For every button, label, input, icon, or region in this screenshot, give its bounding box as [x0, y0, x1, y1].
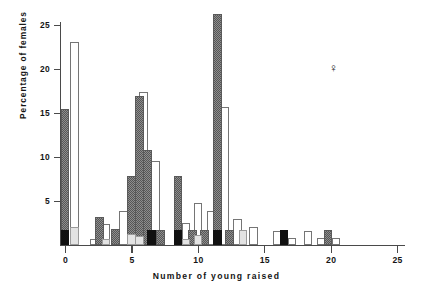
bar [111, 229, 120, 245]
x-axis-label: Number of young raised [0, 271, 433, 281]
bar [194, 235, 203, 245]
x-tick-mark [397, 246, 398, 253]
bar [70, 42, 79, 245]
x-tick-mark [131, 246, 132, 253]
bar [174, 230, 183, 245]
bar [249, 227, 258, 245]
x-tick-label: 10 [187, 255, 209, 265]
bar [225, 230, 234, 245]
x-tick-mark [65, 246, 66, 253]
bar [70, 227, 79, 245]
bar [213, 230, 222, 245]
bar [324, 230, 333, 245]
bar [182, 239, 191, 245]
bar [61, 109, 70, 245]
bar [304, 231, 313, 245]
bar [332, 238, 341, 245]
bar [61, 230, 70, 245]
y-tick-label: 15 [28, 108, 50, 118]
bar [213, 14, 222, 245]
bar [288, 238, 297, 245]
x-tick-mark [264, 246, 265, 253]
x-tick-mark [198, 246, 199, 253]
bar [102, 239, 111, 245]
histogram-chart: Percentage of females Number of young ra… [0, 0, 433, 294]
y-axis-label: Percentage of females [18, 0, 28, 140]
bar [135, 236, 144, 245]
x-axis-line [60, 245, 405, 246]
bar [156, 230, 165, 245]
bar [239, 230, 248, 245]
x-tick-label: 20 [320, 255, 342, 265]
y-tick-label: 20 [28, 64, 50, 74]
x-tick-mark [331, 246, 332, 253]
y-tick-label: 25 [28, 20, 50, 30]
bar [147, 230, 156, 245]
y-tick-mark [54, 69, 61, 70]
bar [280, 230, 289, 245]
y-tick-label: 10 [28, 152, 50, 162]
x-tick-label: 0 [55, 255, 77, 265]
x-tick-label: 5 [121, 255, 143, 265]
female-symbol-annotation: ♀ [329, 62, 338, 74]
y-tick-label: 5 [28, 196, 50, 206]
x-tick-label: 15 [254, 255, 276, 265]
y-tick-mark [54, 25, 61, 26]
x-tick-label: 25 [387, 255, 409, 265]
